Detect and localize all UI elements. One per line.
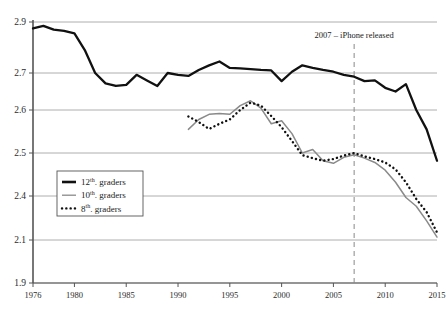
x-tick-label-1980: 1980: [66, 290, 83, 300]
y-tick-label-2.1: 2.1: [14, 235, 26, 245]
x-tick-label-1990: 1990: [170, 290, 187, 300]
legend-label-1: 10th. graders: [81, 190, 126, 200]
y-tick-label-2.5: 2.5: [14, 148, 26, 158]
chart-legend: 12th. graders10th. graders8th. graders: [57, 171, 143, 216]
x-tick-label-2000: 2000: [273, 290, 290, 300]
chart-container: 2.92.72.62.52.42.11.9 197619801985199019…: [0, 0, 446, 311]
x-tick-label-1985: 1985: [118, 290, 135, 300]
y-tick-label-2.7: 2.7: [14, 68, 26, 78]
x-tick-label-2015: 2015: [429, 290, 446, 300]
annotation-text-iphone: 2007 – iPhone released: [315, 30, 395, 40]
x-tick-label-1976: 1976: [25, 290, 42, 300]
x-tick-label-1995: 1995: [221, 290, 238, 300]
y-tick-label-2.9: 2.9: [14, 17, 26, 27]
y-tick-label-2.4: 2.4: [14, 191, 26, 201]
x-tick-label-2010: 2010: [377, 290, 394, 300]
y-tick-label-1.9: 1.9: [14, 278, 26, 288]
annotation-label-group: 2007 – iPhone released: [315, 30, 395, 40]
legend-label-0: 12th. graders: [81, 177, 126, 187]
line-chart: 2.92.72.62.52.42.11.9 197619801985199019…: [0, 0, 446, 311]
y-tick-label-2.6: 2.6: [14, 105, 26, 115]
chart-background: [0, 0, 446, 311]
x-tick-label-2005: 2005: [325, 290, 342, 300]
